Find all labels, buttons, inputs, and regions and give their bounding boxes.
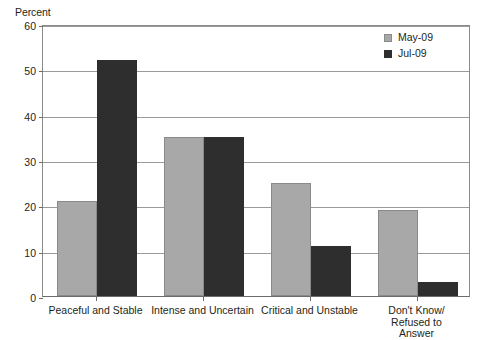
x-tick-mark — [203, 297, 204, 301]
x-axis-label: Intense and Uncertain — [151, 305, 254, 317]
y-tick-label: 40 — [24, 111, 36, 122]
legend: May-09Jul-09 — [384, 31, 433, 63]
bar-jul-09[interactable] — [418, 282, 458, 296]
y-tick-label: 50 — [24, 66, 36, 77]
y-tick-mark — [39, 298, 43, 299]
y-tick-label: 20 — [24, 202, 36, 213]
bar-group — [257, 26, 364, 296]
y-tick-label: 60 — [24, 21, 36, 32]
bar-may-09[interactable] — [378, 210, 418, 296]
bar-may-09[interactable] — [57, 201, 97, 296]
y-tick-label: 30 — [24, 157, 36, 168]
bar-may-09[interactable] — [271, 183, 311, 296]
legend-item[interactable]: Jul-09 — [384, 47, 433, 60]
legend-label: Jul-09 — [398, 48, 427, 59]
bar-jul-09[interactable] — [97, 60, 137, 296]
x-tick-mark — [310, 297, 311, 301]
bar-group — [43, 26, 150, 296]
bar-group — [150, 26, 257, 296]
bars-layer — [43, 26, 469, 296]
x-axis-label: Don't Know/ Refused to Answer — [380, 305, 454, 340]
legend-label: May-09 — [398, 32, 433, 43]
y-axis-title: Percent — [15, 6, 51, 18]
bar-jul-09[interactable] — [311, 246, 351, 296]
legend-swatch — [384, 50, 392, 58]
plot-area: 0102030405060 — [42, 25, 470, 297]
y-tick-label: 10 — [24, 247, 36, 258]
bar-may-09[interactable] — [164, 137, 204, 296]
legend-item[interactable]: May-09 — [384, 31, 433, 44]
x-axis-label: Peaceful and Stable — [49, 305, 143, 317]
bar-jul-09[interactable] — [204, 137, 244, 296]
x-axis-label: Critical and Unstable — [261, 305, 358, 317]
y-tick-label: 0 — [30, 293, 36, 304]
bar-group — [364, 26, 471, 296]
x-tick-mark — [96, 297, 97, 301]
x-tick-mark — [417, 297, 418, 301]
legend-swatch — [384, 34, 392, 42]
